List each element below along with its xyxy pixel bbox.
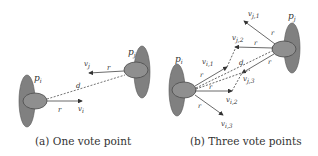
label-vi1: vi,1 — [202, 58, 214, 67]
point-pi-inner — [23, 93, 47, 109]
label-vj: vj — [84, 60, 90, 70]
label-r-vi1: r — [200, 71, 204, 79]
distance-d-line — [47, 75, 125, 99]
label-r-vj2: r — [254, 39, 258, 47]
label-vj1: vj,1 — [248, 10, 260, 20]
label-vi: vi — [78, 105, 84, 114]
label-r-vj3: r — [268, 58, 272, 66]
figure: pi pj d r r vi vj (a) One vote point pi … — [0, 0, 318, 156]
label-r-vj1: r — [271, 29, 275, 37]
caption-b: (b) Three vote points — [190, 135, 302, 147]
point-pj-inner — [124, 62, 148, 78]
label-vi3: vi,3 — [221, 120, 233, 129]
label-pj: pj — [128, 47, 136, 59]
label-pj: pj — [288, 11, 296, 23]
dashed-d — [196, 51, 272, 88]
dashed-vi1-vj2 — [227, 47, 236, 67]
label-r-vi3: r — [198, 102, 202, 110]
caption-a: (a) One vote point — [35, 135, 132, 147]
label-pi: pi — [34, 73, 42, 84]
label-d: d — [239, 59, 244, 67]
label-vj3: vj,3 — [243, 75, 255, 85]
label-r-vi2: r — [209, 83, 213, 91]
dashed-pi-vj3 — [196, 70, 250, 89]
label-pi: pi — [175, 54, 183, 65]
label-r-i: r — [58, 106, 62, 114]
label-vi2: vi,2 — [226, 96, 238, 105]
arrow-vj2 — [235, 47, 273, 48]
label-vj2: vj,2 — [232, 34, 244, 44]
label-d: d — [76, 82, 81, 90]
panel-b: pi pj d r r r r r r vj,1 vj,2 vj,3 vi,1 … — [169, 10, 302, 147]
label-r-j: r — [107, 64, 111, 72]
panel-a: pi pj d r r vi vj (a) One vote point — [19, 46, 150, 147]
point-pi-inner — [172, 82, 196, 98]
point-pj-inner — [272, 41, 296, 57]
